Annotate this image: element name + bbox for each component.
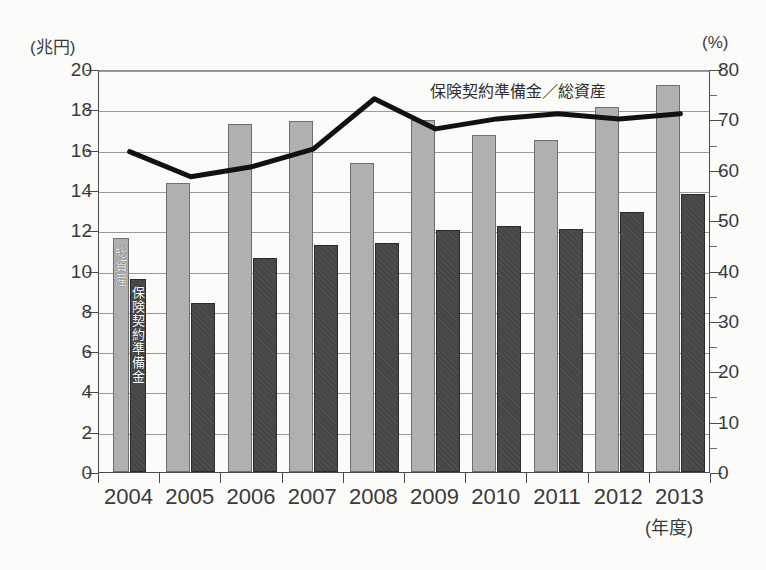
gridline <box>99 71 709 72</box>
bar-total-assets <box>656 85 680 472</box>
x-axis-label-2012: 2012 <box>583 484 653 510</box>
right-axis-tick-label: 0 <box>718 463 762 482</box>
right-axis-minor-tick-mark <box>710 347 717 348</box>
x-axis-unit-label: (年度) <box>645 513 693 539</box>
x-axis-tick-mark <box>282 473 283 483</box>
left-axis-unit-label: (兆円) <box>30 33 75 58</box>
right-axis-tick-label: 60 <box>718 161 762 180</box>
bar-insurance-reserve <box>559 229 583 472</box>
bar-insurance-reserve <box>620 212 644 472</box>
right-axis-minor-tick-mark <box>710 146 717 147</box>
x-axis-tick-mark <box>649 473 650 483</box>
left-axis-tick-label: 18 <box>52 100 92 119</box>
left-axis-tick-label: 12 <box>52 221 92 240</box>
right-axis-minor-tick-mark <box>710 246 717 247</box>
bar-insurance-reserve <box>375 243 399 472</box>
bar-insurance-reserve <box>253 258 277 472</box>
right-axis-tick-label: 30 <box>718 312 762 331</box>
bar-insurance-reserve <box>681 194 705 472</box>
x-axis-label-2005: 2005 <box>155 484 225 510</box>
left-axis-tick-label: 6 <box>52 342 92 361</box>
x-axis-tick-mark <box>465 473 466 483</box>
left-axis-tick-label: 0 <box>52 463 92 482</box>
right-axis-tick-label: 70 <box>718 110 762 129</box>
right-axis-unit-label: (%) <box>702 33 728 53</box>
x-axis-label-2013: 2013 <box>644 484 714 510</box>
right-axis-tick-label: 80 <box>718 60 762 79</box>
right-axis-minor-tick-mark <box>710 448 717 449</box>
legend-label-insurance-reserve: 保険契約準備金 <box>131 286 145 384</box>
x-axis-tick-mark <box>98 473 99 483</box>
x-axis-label-2007: 2007 <box>277 484 347 510</box>
bar-insurance-reserve <box>436 230 460 472</box>
bar-total-assets: 総資産 <box>113 238 129 472</box>
left-axis-tick-label: 2 <box>52 423 92 442</box>
x-axis-label-2010: 2010 <box>461 484 531 510</box>
left-axis-tick-label: 20 <box>52 60 92 79</box>
right-axis-minor-tick-mark <box>710 95 717 96</box>
bar-insurance-reserve <box>497 226 521 472</box>
right-axis-minor-tick-mark <box>710 397 717 398</box>
legend-label-total-assets: 総資産 <box>114 245 128 287</box>
x-axis-tick-mark <box>404 473 405 483</box>
bar-insurance-reserve: 保険契約準備金 <box>130 279 146 472</box>
bar-insurance-reserve <box>314 245 338 472</box>
bar-total-assets <box>534 140 558 472</box>
chart-page: (兆円) (%) 02468101214161820 0102030405060… <box>0 0 766 570</box>
right-axis-tick-label: 50 <box>718 211 762 230</box>
bar-total-assets <box>228 124 252 472</box>
bar-total-assets <box>289 121 313 472</box>
bar-total-assets <box>595 107 619 472</box>
plot-area: 総資産保険契約準備金 <box>98 70 710 473</box>
x-axis-label-2009: 2009 <box>400 484 470 510</box>
left-axis-tick-label: 4 <box>52 382 92 401</box>
x-axis-tick-mark <box>526 473 527 483</box>
x-axis-label-2011: 2011 <box>522 484 592 510</box>
right-axis-minor-tick-mark <box>710 297 717 298</box>
bar-total-assets <box>411 120 435 472</box>
right-axis-tick-label: 20 <box>718 362 762 381</box>
left-axis-tick-label: 8 <box>52 302 92 321</box>
bar-total-assets <box>166 183 190 472</box>
left-axis-tick-label: 16 <box>52 141 92 160</box>
x-axis-tick-mark <box>220 473 221 483</box>
x-axis-tick-mark <box>159 473 160 483</box>
x-axis-tick-mark <box>710 473 711 483</box>
bar-total-assets <box>472 135 496 473</box>
right-axis-tick-label: 40 <box>718 262 762 281</box>
x-axis-label-2006: 2006 <box>216 484 286 510</box>
x-axis-label-2004: 2004 <box>94 484 164 510</box>
bar-total-assets <box>350 163 374 472</box>
right-axis-tick-label: 10 <box>718 413 762 432</box>
line-series-annotation: 保険契約準備金／総資産 <box>430 78 606 102</box>
right-axis-minor-tick-mark <box>710 196 717 197</box>
x-axis-tick-mark <box>343 473 344 483</box>
left-axis-tick-label: 14 <box>52 181 92 200</box>
x-axis-label-2008: 2008 <box>338 484 408 510</box>
bar-insurance-reserve <box>191 303 215 472</box>
left-axis-tick-label: 10 <box>52 262 92 281</box>
x-axis-tick-mark <box>588 473 589 483</box>
